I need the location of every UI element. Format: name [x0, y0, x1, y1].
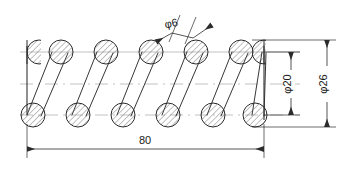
wire-section-top — [94, 40, 118, 64]
outer-diameter-label: φ26 — [317, 74, 329, 93]
wire-sections-top-row — [27, 40, 276, 64]
wire-section-top — [229, 40, 253, 64]
wire-section-bottom — [201, 103, 225, 127]
free-length-label: 80 — [139, 134, 151, 146]
spring-technical-drawing: φ6 φ20 φ26 80 — [0, 0, 343, 174]
wire-section-bottom — [21, 103, 45, 127]
wire-section-top — [49, 40, 73, 64]
wire-section-bottom — [66, 103, 90, 127]
wire-section-bottom — [156, 103, 180, 127]
wire-section-bottom — [111, 103, 135, 127]
wire-section-bottom — [243, 103, 267, 127]
wire-section-top — [184, 40, 208, 64]
inner-diameter-label: φ20 — [281, 74, 293, 93]
wire-section-top — [139, 40, 163, 64]
